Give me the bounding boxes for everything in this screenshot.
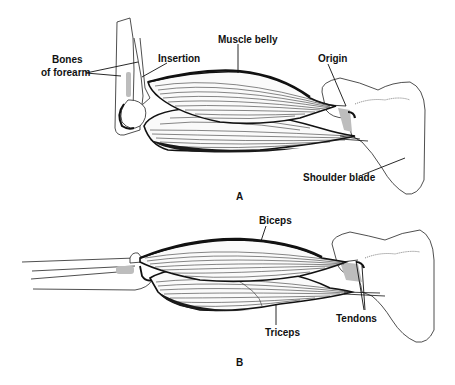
label-bones: Bones [52,54,83,65]
label-shoulder-blade: Shoulder blade [303,172,376,183]
label-tendons: Tendons [336,313,377,324]
panel-a: Bones of forearm Insertion Muscle belly … [41,18,425,202]
forearm-bones [115,18,150,135]
label-of-forearm: of forearm [41,67,91,78]
label-triceps: Triceps [265,327,300,338]
label-origin: Origin [318,53,347,64]
shoulder-blade-b [332,230,434,342]
label-muscle-belly: Muscle belly [218,34,278,45]
panel-label-a: A [236,191,243,202]
anatomy-diagram: Bones of forearm Insertion Muscle belly … [0,0,455,385]
label-insertion: Insertion [158,53,200,64]
panel-b: Biceps Triceps Tendons B [22,215,434,368]
forearm-bones-b [22,253,152,290]
panel-label-b: B [236,357,243,368]
label-biceps: Biceps [259,215,292,226]
